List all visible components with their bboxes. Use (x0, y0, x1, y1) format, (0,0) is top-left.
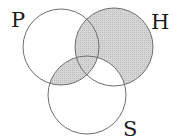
label-s: S (123, 117, 137, 138)
venn-diagram: P H S (0, 0, 179, 138)
label-p: P (11, 8, 25, 32)
label-h: H (151, 10, 169, 34)
